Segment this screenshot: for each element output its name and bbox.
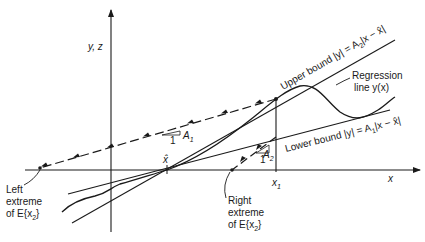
slope-A1-rise: A1 xyxy=(182,130,194,143)
x-axis-label: x xyxy=(387,173,394,184)
lower-bound-line xyxy=(68,110,390,194)
slope-A1-run: 1 xyxy=(170,135,176,146)
lower-bound-label: Lower bound |y| = A1|x − x̂| xyxy=(284,115,402,156)
regression-curve xyxy=(62,86,395,212)
right-extreme-line2: extreme xyxy=(228,207,265,218)
regression-label-line1: Regression xyxy=(352,70,403,81)
regression-label-line2: line y(x) xyxy=(354,82,389,93)
x-hat-label: x̂ xyxy=(162,154,169,165)
regression-pointer xyxy=(336,78,350,85)
regression-bounds-diagram: y, z x x1 x̂ xyxy=(0,0,425,242)
left-extreme-line3: of E{x2} xyxy=(6,208,40,221)
left-extreme-dashed-path xyxy=(38,99,276,170)
right-extreme-line3: of E{x2} xyxy=(228,219,262,232)
y-axis-label: y, z xyxy=(87,41,103,52)
left-extreme-line1: Left xyxy=(6,184,23,195)
left-extreme-line2: extreme xyxy=(6,196,43,207)
right-extreme-line1: Right xyxy=(228,195,252,206)
left-extreme-pointer xyxy=(24,170,40,185)
x1-label: x1 xyxy=(271,177,281,190)
